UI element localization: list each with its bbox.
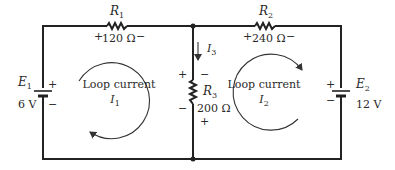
junction-top [191, 24, 196, 29]
battery-e1: E1 6 V + − [17, 75, 57, 111]
r3-name: R3 [202, 84, 217, 100]
r3-minus-right: − [200, 68, 209, 81]
r3-minus-left: − [178, 102, 187, 115]
e2-minus: − [326, 94, 335, 107]
resistor-r3: R3 200 Ω + − − + [178, 68, 231, 128]
circuit-diagram: R1 + 120 Ω − R2 + 240 Ω − R3 200 Ω + − −… [0, 0, 395, 170]
r2-value: 240 Ω [252, 32, 286, 45]
svg-text:I3: I3 [206, 42, 216, 57]
svg-text:I1: I1 [109, 93, 119, 108]
r3-plus-left: + [178, 68, 187, 81]
r3-plus-right: + [200, 115, 209, 128]
resistor-r1: R1 + 120 Ω − [94, 4, 145, 45]
resistor-r2: R2 + 240 Ω − [243, 4, 295, 45]
battery-e2: E2 12 V + − [326, 77, 382, 111]
e1-minus: − [48, 98, 57, 111]
e1-value: 6 V [18, 98, 37, 111]
r2-minus: − [286, 30, 295, 43]
r1-name: R1 [109, 4, 124, 20]
e2-plus: + [326, 78, 335, 91]
junction-bottom [191, 157, 196, 162]
r3-value: 200 Ω [197, 102, 231, 115]
branch-current-i3: I3 [198, 42, 216, 60]
e1-name: E1 [17, 75, 32, 91]
loop-current-1: Loop current I1 [79, 63, 156, 139]
e1-plus: + [48, 78, 57, 91]
r1-minus: − [136, 30, 145, 43]
e2-name: E2 [355, 77, 370, 93]
loop1-label: Loop current [83, 78, 156, 91]
r2-name: R2 [258, 4, 273, 20]
e2-value: 12 V [356, 98, 382, 111]
cw-arrow-icon [233, 54, 302, 130]
loop2-label: Loop current [228, 78, 301, 91]
r2-plus: + [243, 30, 252, 43]
svg-text:I2: I2 [258, 93, 268, 108]
loop-current-2: Loop current I2 [228, 54, 302, 130]
r1-value: 120 Ω [102, 32, 136, 45]
